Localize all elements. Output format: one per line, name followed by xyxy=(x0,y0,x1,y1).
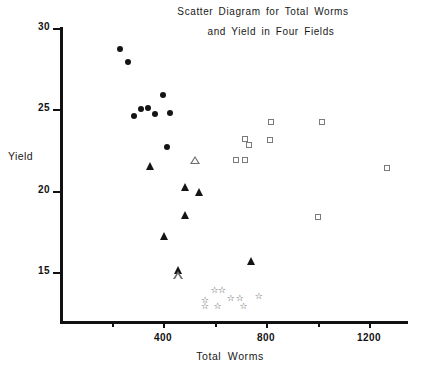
x-tick-label-400: 400 xyxy=(140,332,186,343)
x-minor-tick-1000 xyxy=(318,321,320,327)
data-point-open-star-4-3 xyxy=(227,294,235,303)
scatter-chart: Scatter Diagram for Total Worms and Yiel… xyxy=(0,0,430,372)
data-point-open-square-3-8 xyxy=(315,214,321,220)
data-point-open-star-4-6 xyxy=(201,302,209,311)
data-point-filled-triangle-1-4 xyxy=(160,232,168,240)
data-point-filled-triangle-1-2 xyxy=(195,188,203,196)
x-minor-tick-600 xyxy=(215,321,217,327)
y-tick-30 xyxy=(53,28,61,30)
y-tick-label-25: 25 xyxy=(26,102,50,113)
x-tick-label-1200: 1200 xyxy=(346,332,392,343)
data-point-open-square-3-4 xyxy=(246,142,252,148)
y-tick-15 xyxy=(53,272,61,274)
chart-title-line-1: Scatter Diagram for Total Worms xyxy=(0,6,430,17)
y-tick-label-30: 30 xyxy=(26,21,50,32)
y-tick-label-20: 20 xyxy=(26,184,50,195)
data-point-filled-triangle-1-1 xyxy=(181,183,189,191)
x-tick-label-800: 800 xyxy=(243,332,289,343)
x-tick-400 xyxy=(163,321,165,328)
data-point-filled-circle-0-0 xyxy=(117,46,123,52)
x-minor-tick-200 xyxy=(112,321,114,327)
y-tick-20 xyxy=(53,191,61,193)
data-point-open-square-3-2 xyxy=(242,136,248,142)
y-axis-line xyxy=(60,27,63,323)
data-point-open-star-4-1 xyxy=(218,285,226,294)
chart-title-line-2: and Yield in Four Fields xyxy=(0,26,430,37)
data-point-filled-circle-0-4 xyxy=(145,105,151,111)
y-tick-25 xyxy=(53,109,61,111)
data-point-open-square-3-0 xyxy=(268,119,274,125)
data-point-filled-triangle-1-6 xyxy=(247,257,255,265)
data-point-filled-circle-0-2 xyxy=(160,92,166,98)
data-point-filled-triangle-1-0 xyxy=(146,162,154,170)
data-point-open-triangle-2-0 xyxy=(190,156,200,164)
data-point-open-star-4-8 xyxy=(240,302,248,311)
data-point-open-star-4-5 xyxy=(255,292,263,301)
data-point-filled-circle-0-8 xyxy=(164,144,170,150)
x-tick-800 xyxy=(266,321,268,328)
x-tick-1200 xyxy=(369,321,371,328)
y-tick-label-15: 15 xyxy=(26,265,50,276)
data-point-filled-circle-0-3 xyxy=(138,106,144,112)
data-point-open-square-3-5 xyxy=(233,157,239,163)
data-point-open-square-3-1 xyxy=(319,119,325,125)
x-axis-title: Total Worms xyxy=(0,350,430,362)
data-point-filled-circle-0-1 xyxy=(125,59,131,65)
data-point-filled-circle-0-6 xyxy=(152,111,158,117)
data-point-open-square-3-3 xyxy=(267,137,273,143)
y-axis-title: Yield xyxy=(8,150,33,162)
data-point-open-square-3-6 xyxy=(242,157,248,163)
data-point-filled-circle-0-5 xyxy=(131,113,137,119)
data-point-open-triangle-2-1 xyxy=(173,271,183,279)
data-point-filled-triangle-1-3 xyxy=(181,211,189,219)
data-point-filled-circle-0-7 xyxy=(167,110,173,116)
data-point-open-star-4-7 xyxy=(214,302,222,311)
data-point-open-square-3-7 xyxy=(384,165,390,171)
